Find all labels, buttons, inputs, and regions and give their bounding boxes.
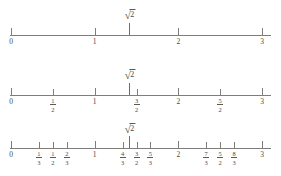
fraction-denominator: 2 bbox=[217, 159, 223, 166]
radicand-value: 2 bbox=[129, 69, 135, 79]
fraction-numerator: 1 bbox=[36, 150, 42, 157]
tick-label-integer: 0 bbox=[9, 37, 13, 46]
sqrt2-label: √2 bbox=[124, 124, 136, 134]
tick-label-fraction: 32 bbox=[134, 150, 140, 166]
tick-label-integer: 0 bbox=[9, 97, 13, 106]
tick-mark bbox=[178, 141, 179, 148]
radicand-value: 2 bbox=[129, 9, 135, 19]
sqrt2-label: √2 bbox=[124, 10, 136, 20]
tick-label-integer: 1 bbox=[93, 37, 97, 46]
radical-symbol-group: √2 bbox=[124, 10, 136, 20]
fraction-numerator: 7 bbox=[203, 150, 209, 157]
tick-mark bbox=[11, 88, 12, 95]
sqrt2-tick-mark bbox=[129, 136, 130, 148]
tick-label-integer: 3 bbox=[260, 150, 264, 159]
tick-mark bbox=[95, 141, 96, 148]
axis-line bbox=[10, 95, 271, 96]
radical-symbol-group: √2 bbox=[124, 124, 136, 134]
tick-label-integer: 2 bbox=[176, 37, 180, 46]
tick-label-integer: 0 bbox=[9, 150, 13, 159]
radicand-value: 2 bbox=[129, 123, 135, 133]
tick-label-fraction: 23 bbox=[64, 150, 70, 166]
fraction-numerator: 3 bbox=[134, 150, 140, 157]
tick-mark bbox=[95, 28, 96, 35]
tick-mark bbox=[11, 141, 12, 148]
sqrt2-tick-mark bbox=[129, 83, 130, 95]
tick-label-fraction: 73 bbox=[203, 150, 209, 166]
fraction-numerator: 1 bbox=[50, 150, 56, 157]
tick-mark bbox=[53, 89, 54, 95]
tick-label-fraction: 12 bbox=[50, 150, 56, 166]
tick-mark bbox=[262, 88, 263, 95]
tick-mark bbox=[67, 142, 68, 148]
tick-label-integer: 1 bbox=[93, 97, 97, 106]
number-line-figure: 0123√20121322523√20131223143325327352833… bbox=[0, 0, 281, 176]
fraction-numerator: 2 bbox=[64, 150, 70, 157]
tick-mark bbox=[206, 142, 207, 148]
tick-mark bbox=[11, 28, 12, 35]
sqrt2-label: √2 bbox=[124, 70, 136, 80]
tick-mark bbox=[234, 142, 235, 148]
tick-mark bbox=[262, 141, 263, 148]
fraction-numerator: 5 bbox=[147, 150, 153, 157]
fraction-denominator: 2 bbox=[50, 106, 56, 113]
tick-label-integer: 3 bbox=[260, 97, 264, 106]
tick-mark bbox=[53, 142, 54, 148]
tick-mark bbox=[178, 88, 179, 95]
tick-mark bbox=[123, 142, 124, 148]
tick-mark bbox=[137, 89, 138, 95]
fraction-numerator: 8 bbox=[231, 150, 237, 157]
tick-mark bbox=[137, 142, 138, 148]
fraction-numerator: 4 bbox=[120, 150, 126, 157]
tick-label-integer: 1 bbox=[93, 150, 97, 159]
tick-mark bbox=[150, 142, 151, 148]
tick-mark bbox=[220, 89, 221, 95]
tick-label-integer: 2 bbox=[176, 150, 180, 159]
fraction-denominator: 3 bbox=[147, 159, 153, 166]
axis-line bbox=[10, 148, 271, 149]
fraction-numerator: 5 bbox=[217, 97, 223, 104]
tick-label-integer: 3 bbox=[260, 37, 264, 46]
fraction-denominator: 3 bbox=[203, 159, 209, 166]
tick-label-fraction: 83 bbox=[231, 150, 237, 166]
tick-mark bbox=[95, 88, 96, 95]
fraction-denominator: 3 bbox=[64, 159, 70, 166]
tick-mark bbox=[220, 142, 221, 148]
fraction-denominator: 3 bbox=[120, 159, 126, 166]
sqrt2-tick-mark bbox=[129, 23, 130, 35]
fraction-numerator: 1 bbox=[50, 97, 56, 104]
tick-mark bbox=[262, 28, 263, 35]
fraction-denominator: 3 bbox=[36, 159, 42, 166]
fraction-denominator: 2 bbox=[50, 159, 56, 166]
tick-label-integer: 2 bbox=[176, 97, 180, 106]
tick-mark bbox=[39, 142, 40, 148]
fraction-denominator: 2 bbox=[134, 159, 140, 166]
fraction-denominator: 3 bbox=[231, 159, 237, 166]
tick-label-fraction: 52 bbox=[217, 97, 223, 113]
tick-label-fraction: 43 bbox=[120, 150, 126, 166]
fraction-denominator: 2 bbox=[217, 106, 223, 113]
tick-label-fraction: 52 bbox=[217, 150, 223, 166]
tick-label-fraction: 32 bbox=[134, 97, 140, 113]
fraction-numerator: 5 bbox=[217, 150, 223, 157]
tick-label-fraction: 12 bbox=[50, 97, 56, 113]
fraction-numerator: 3 bbox=[134, 97, 140, 104]
tick-label-fraction: 53 bbox=[147, 150, 153, 166]
radical-symbol-group: √2 bbox=[124, 70, 136, 80]
tick-mark bbox=[178, 28, 179, 35]
axis-line bbox=[10, 35, 271, 36]
tick-label-fraction: 13 bbox=[36, 150, 42, 166]
fraction-denominator: 2 bbox=[134, 106, 140, 113]
